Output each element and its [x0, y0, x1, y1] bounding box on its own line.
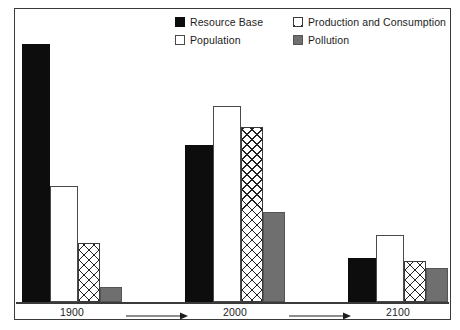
chart-legend: Resource Base Production and Consumption…: [175, 13, 445, 48]
legend-item-production-and-consumption[interactable]: Production and Consumption: [293, 16, 445, 28]
legend-swatch-crosshatch-icon: [293, 17, 303, 27]
legend-item-resource-base[interactable]: Resource Base: [175, 16, 293, 28]
bar-population-2000[interactable]: [213, 106, 241, 302]
bar-pollution-2000[interactable]: [263, 212, 285, 302]
bar-resource-base-2000[interactable]: [185, 145, 213, 302]
x-tick-label-2000: 2000: [199, 306, 271, 318]
bar-production-and-consumption-1900[interactable]: [78, 243, 100, 302]
bar-resource-base-2100[interactable]: [348, 258, 376, 302]
legend-label-pollution: Pollution: [308, 34, 349, 46]
legend-label-resource-base: Resource Base: [190, 16, 263, 28]
chart-figure: Resource Base Production and Consumption…: [0, 0, 460, 330]
x-tick-label-1900: 1900: [36, 306, 108, 318]
bar-resource-base-1900[interactable]: [22, 44, 50, 302]
progression-arrow-2000-2100: [289, 311, 351, 321]
legend-swatch-white-outline-icon: [175, 35, 185, 45]
legend-label-population: Population: [190, 34, 241, 46]
bar-population-1900[interactable]: [50, 186, 78, 302]
bar-pollution-1900[interactable]: [100, 287, 122, 302]
bar-production-and-consumption-2100[interactable]: [404, 261, 426, 302]
legend-item-pollution[interactable]: Pollution: [293, 34, 445, 46]
bar-pollution-2100[interactable]: [426, 268, 448, 302]
legend-swatch-solid-gray-icon: [293, 35, 303, 45]
bar-production-and-consumption-2000[interactable]: [241, 127, 263, 302]
bar-population-2100[interactable]: [376, 235, 404, 302]
x-tick-label-2100: 2100: [362, 306, 434, 318]
x-axis-line: [16, 302, 449, 304]
legend-label-production-and-consumption: Production and Consumption: [308, 16, 446, 28]
progression-arrow-1900-2000: [126, 311, 188, 321]
legend-item-population[interactable]: Population: [175, 34, 293, 46]
legend-swatch-solid-black-icon: [175, 17, 185, 27]
